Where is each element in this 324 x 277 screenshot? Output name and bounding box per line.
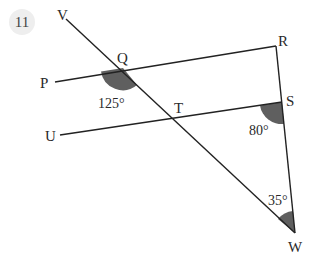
label-Q: Q: [117, 50, 128, 66]
line-PR: [55, 46, 276, 82]
label-S: S: [286, 93, 294, 109]
label-R: R: [278, 33, 288, 49]
label-T: T: [174, 100, 183, 116]
angle-label-SWT: 35°: [268, 193, 288, 208]
question-number: 11: [15, 14, 29, 30]
label-P: P: [40, 75, 48, 91]
label-U: U: [45, 128, 56, 144]
label-V: V: [57, 7, 68, 23]
geometry-diagram: 11 V Q R P T S U W 125° 80° 35°: [0, 0, 324, 277]
label-W: W: [288, 239, 303, 255]
angle-label-TSW: 80°: [249, 123, 269, 138]
angle-label-PQT: 125°: [98, 96, 125, 111]
question-number-badge: 11: [9, 9, 35, 35]
